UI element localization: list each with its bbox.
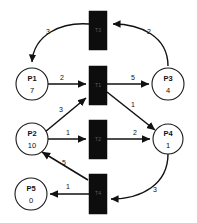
place-tokens-p2: 10 (28, 141, 36, 150)
arc-t1-p3: 5 (107, 74, 149, 84)
arc-p1-t1: 2 (48, 74, 86, 84)
arc-t4-p5: 1 (50, 183, 89, 194)
arc-t3-p1: 3 (32, 24, 89, 62)
arc-p2-t1: 3 (45, 98, 86, 132)
place-label-p5: P5 (26, 184, 35, 193)
arc-weight-t4-p5: 1 (66, 183, 70, 190)
transition-t2[interactable]: T2 (89, 120, 107, 159)
place-circle-p3[interactable] (152, 68, 184, 100)
arc-weight-t4-p2: 5 (62, 159, 66, 166)
place-circle-p5[interactable] (15, 178, 47, 210)
arc-t1-p4: 1 (107, 92, 155, 130)
arc-p2-t2: 1 (48, 129, 86, 139)
arc-weight-t3-p1: 3 (46, 28, 50, 35)
place-label-p3: P3 (163, 74, 172, 83)
arc-weight-p4-t4: 3 (153, 186, 157, 193)
transition-label-t3: T3 (95, 27, 101, 33)
place-tokens-p1: 7 (30, 86, 34, 95)
transition-label-t2: T2 (95, 136, 101, 142)
place-p5[interactable]: P5 0 (15, 178, 47, 210)
place-p1[interactable]: P1 7 (16, 68, 48, 100)
petri-net-diagram: 3 2 2 5 1 3 1 (0, 0, 197, 223)
arc-weight-p3-t3: 2 (147, 28, 151, 35)
arc-p3-t3: 2 (113, 24, 168, 66)
arc-weight-t2-p4: 2 (133, 129, 137, 136)
transition-label-t4: T4 (95, 190, 101, 196)
transition-t3[interactable]: T3 (89, 11, 107, 50)
place-label-p4: P4 (163, 129, 173, 138)
arc-weight-t1-p4: 1 (131, 101, 135, 108)
transition-label-t1: T1 (95, 82, 101, 88)
place-p3[interactable]: P3 4 (152, 68, 184, 100)
transition-t4[interactable]: T4 (89, 174, 107, 214)
arc-p4-t4: 3 (111, 154, 168, 199)
arc-weight-t1-p3: 5 (131, 74, 135, 81)
place-tokens-p3: 4 (166, 86, 170, 95)
arc-line-t1-p4 (107, 92, 155, 130)
arc-weight-p2-t1: 3 (59, 106, 63, 113)
place-p2[interactable]: P2 10 (16, 123, 48, 155)
arc-line-t4-p2 (42, 152, 88, 180)
place-circle-p1[interactable] (16, 68, 48, 100)
place-circle-p2[interactable] (16, 123, 48, 155)
place-tokens-p4: 1 (166, 141, 170, 150)
transition-t1[interactable]: T1 (89, 66, 107, 105)
place-label-p1: P1 (27, 74, 36, 83)
arc-t4-p2: 5 (42, 152, 88, 180)
petri-net-canvas: 3 2 2 5 1 3 1 (0, 0, 197, 223)
arc-line-t3-p1 (32, 24, 89, 62)
arc-t2-p4: 2 (107, 129, 150, 139)
arc-weight-p1-t1: 2 (60, 74, 64, 81)
arc-line-p2-t1 (45, 98, 86, 132)
arc-line-p3-t3 (113, 24, 168, 66)
place-label-p2: P2 (27, 129, 36, 138)
arc-line-p4-t4 (111, 154, 168, 199)
arc-weight-p2-t2: 1 (66, 129, 70, 136)
place-tokens-p5: 0 (29, 196, 33, 205)
place-p4[interactable]: P4 1 (153, 124, 183, 154)
